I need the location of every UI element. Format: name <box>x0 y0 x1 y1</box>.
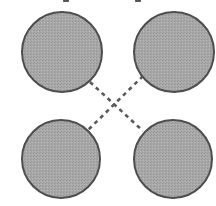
dashed-edge-tl-to-br <box>90 82 143 131</box>
dashed-edge-tr-to-bl <box>85 76 143 133</box>
circle-node-bottom-right <box>134 120 212 198</box>
circle-node-top-right <box>134 12 214 92</box>
circle-node-top-left <box>22 12 102 92</box>
four-node-diagram <box>0 0 216 206</box>
edges-group <box>85 76 143 133</box>
circle-node-bottom-left <box>22 120 100 198</box>
nodes-group <box>22 12 214 198</box>
